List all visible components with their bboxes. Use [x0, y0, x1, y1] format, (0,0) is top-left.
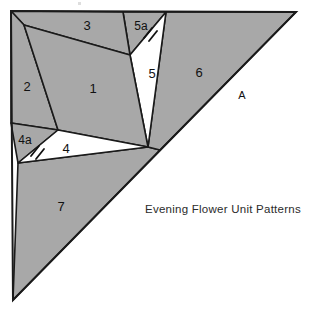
region-label-3: 3 — [83, 18, 90, 33]
region-label-6: 6 — [195, 65, 202, 80]
diagram-root: 1 2 3 4 4a 5 5a 6 7 A Evening Flower Uni… — [0, 0, 309, 320]
region-label-4a: 4a — [18, 133, 32, 147]
region-label-5: 5 — [148, 66, 155, 81]
region-label-1: 1 — [89, 81, 96, 96]
evening-flower-unit-pattern-diagram: 1 2 3 4 4a 5 5a 6 7 A Evening Flower Uni… — [0, 0, 309, 320]
region-label-7: 7 — [57, 199, 64, 214]
figure-caption: Evening Flower Unit Patterns — [145, 203, 301, 215]
scan-artifact-speck — [78, 2, 81, 5]
region-label-5a: 5a — [134, 19, 148, 33]
region-label-4: 4 — [62, 141, 69, 156]
edge-label-a: A — [238, 89, 246, 101]
region-label-2: 2 — [23, 79, 30, 94]
